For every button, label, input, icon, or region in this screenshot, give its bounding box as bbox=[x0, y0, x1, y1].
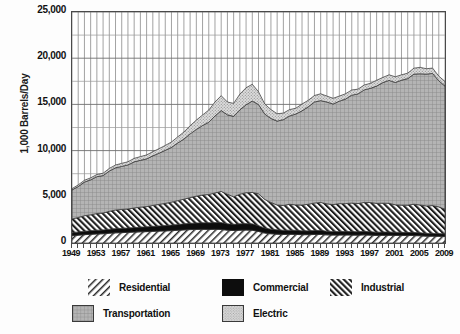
x-tick-mark bbox=[444, 244, 445, 248]
x-tick-label: 1993 bbox=[335, 248, 353, 258]
x-tick-label: 1965 bbox=[161, 248, 179, 258]
x-tick-mark bbox=[295, 244, 296, 248]
x-axis-tick-marks bbox=[71, 244, 446, 248]
x-tick-mark bbox=[363, 244, 364, 248]
x-tick-mark bbox=[183, 244, 184, 248]
x-tick-mark bbox=[338, 244, 339, 248]
x-tick-mark bbox=[438, 244, 439, 248]
x-tick-mark bbox=[345, 244, 346, 248]
x-axis-tick-labels: 1949195319571961196519691973197719811985… bbox=[71, 248, 446, 262]
legend-label: Industrial bbox=[361, 282, 404, 293]
x-tick-mark bbox=[158, 244, 159, 248]
y-tick-label: 20,000 bbox=[12, 50, 66, 61]
x-tick-mark bbox=[152, 244, 153, 248]
x-tick-mark bbox=[258, 244, 259, 248]
legend-swatch-stipple-dots bbox=[222, 305, 244, 322]
x-tick-mark bbox=[96, 244, 97, 248]
x-tick-mark bbox=[189, 244, 190, 248]
x-tick-mark bbox=[264, 244, 265, 248]
x-tick-mark bbox=[332, 244, 333, 248]
x-tick-mark bbox=[270, 244, 271, 248]
x-tick-label: 1989 bbox=[311, 248, 329, 258]
x-tick-mark bbox=[164, 244, 165, 248]
x-tick-mark bbox=[115, 244, 116, 248]
y-tick-label: 15,000 bbox=[12, 96, 66, 107]
x-tick-mark bbox=[108, 244, 109, 248]
x-tick-mark bbox=[301, 244, 302, 248]
x-tick-mark bbox=[208, 244, 209, 248]
x-tick-mark bbox=[177, 244, 178, 248]
x-tick-mark bbox=[276, 244, 277, 248]
y-tick-label: 10,000 bbox=[12, 143, 66, 154]
x-tick-mark bbox=[289, 244, 290, 248]
x-tick-label: 1985 bbox=[286, 248, 304, 258]
y-tick-label: 0 bbox=[12, 235, 66, 246]
x-tick-mark bbox=[77, 244, 78, 248]
legend-item-industrial[interactable]: Industrial bbox=[330, 276, 404, 298]
legend-item-transportation[interactable]: Transportation bbox=[72, 302, 170, 324]
legend-label: Transportation bbox=[103, 308, 170, 319]
legend-item-electric[interactable]: Electric bbox=[222, 302, 288, 324]
legend-item-residential[interactable]: Residential bbox=[88, 276, 170, 298]
chart-legend: Residential bbox=[0, 276, 460, 332]
x-tick-label: 1949 bbox=[62, 248, 80, 258]
legend-item-commercial[interactable]: Commercial bbox=[222, 276, 308, 298]
x-tick-mark bbox=[407, 244, 408, 248]
x-tick-mark bbox=[382, 244, 383, 248]
x-tick-mark bbox=[133, 244, 134, 248]
legend-swatch-crosshatch-grid bbox=[72, 305, 94, 322]
legend-label: Residential bbox=[119, 282, 170, 293]
legend-swatch-diagonal-hatch-dense bbox=[330, 279, 352, 296]
x-tick-mark bbox=[121, 244, 122, 248]
x-tick-mark bbox=[71, 244, 72, 248]
x-tick-mark bbox=[388, 244, 389, 248]
x-tick-mark bbox=[170, 244, 171, 248]
x-tick-label: 1981 bbox=[261, 248, 279, 258]
x-tick-label: 2009 bbox=[435, 248, 453, 258]
x-tick-mark bbox=[239, 244, 240, 248]
x-tick-mark bbox=[102, 244, 103, 248]
x-tick-mark bbox=[127, 244, 128, 248]
x-tick-mark bbox=[233, 244, 234, 248]
stacked-area-plot bbox=[72, 12, 445, 243]
x-tick-mark bbox=[313, 244, 314, 248]
x-tick-mark bbox=[376, 244, 377, 248]
x-tick-mark bbox=[220, 244, 221, 248]
x-tick-label: 1997 bbox=[360, 248, 378, 258]
x-tick-mark bbox=[245, 244, 246, 248]
legend-swatch-diagonal-hatch-light bbox=[88, 279, 110, 296]
x-tick-mark bbox=[195, 244, 196, 248]
x-tick-label: 2005 bbox=[410, 248, 428, 258]
legend-label: Electric bbox=[253, 308, 288, 319]
x-tick-mark bbox=[307, 244, 308, 248]
x-tick-mark bbox=[413, 244, 414, 248]
x-tick-label: 1953 bbox=[87, 248, 105, 258]
x-tick-mark bbox=[369, 244, 370, 248]
x-tick-mark bbox=[90, 244, 91, 248]
x-tick-mark bbox=[214, 244, 215, 248]
x-tick-mark bbox=[432, 244, 433, 248]
chart-figure: 1,000 Barrels/Day 05,00010,00015,00020,0… bbox=[0, 0, 460, 334]
y-tick-label: 25,000 bbox=[12, 4, 66, 15]
plot-area bbox=[71, 11, 446, 244]
x-tick-mark bbox=[226, 244, 227, 248]
x-tick-label: 2001 bbox=[385, 248, 403, 258]
x-tick-mark bbox=[357, 244, 358, 248]
x-tick-mark bbox=[146, 244, 147, 248]
x-tick-mark bbox=[282, 244, 283, 248]
x-tick-mark bbox=[139, 244, 140, 248]
x-tick-mark bbox=[320, 244, 321, 248]
x-tick-mark bbox=[202, 244, 203, 248]
x-tick-mark bbox=[326, 244, 327, 248]
x-tick-mark bbox=[351, 244, 352, 248]
x-tick-mark bbox=[419, 244, 420, 248]
legend-swatch-solid-black bbox=[222, 279, 244, 296]
x-tick-mark bbox=[400, 244, 401, 248]
x-tick-mark bbox=[394, 244, 395, 248]
x-tick-mark bbox=[83, 244, 84, 248]
x-tick-mark bbox=[425, 244, 426, 248]
x-tick-label: 1973 bbox=[211, 248, 229, 258]
x-tick-label: 1957 bbox=[112, 248, 130, 258]
legend-label: Commercial bbox=[253, 282, 308, 293]
x-tick-label: 1977 bbox=[236, 248, 254, 258]
